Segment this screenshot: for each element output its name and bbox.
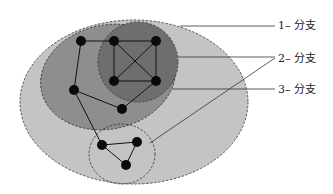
graph-node [117,104,127,114]
graph-node [69,85,79,95]
graph-node [109,76,119,86]
label-branch-1: 1– 分支 [278,20,316,32]
label-branch-3: 3– 分支 [278,84,316,96]
graph-node [132,137,142,147]
label-branch-2: 2– 分支 [278,53,316,65]
inner-region [98,22,178,102]
graph-node [109,36,119,46]
graph-node [121,160,131,170]
graph-node [97,140,107,150]
graph-node [76,36,86,46]
graph-node [151,36,161,46]
graph-node [151,76,161,86]
